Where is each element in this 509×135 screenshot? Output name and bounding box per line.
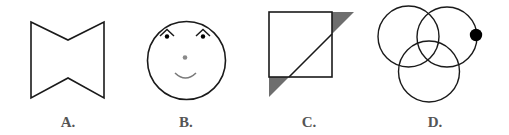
label-c: C. — [289, 114, 329, 130]
figure-b — [148, 22, 226, 100]
figure-c — [269, 12, 354, 97]
smile-icon — [175, 73, 196, 78]
bowtie-hexagon-shape — [31, 22, 104, 98]
figure-a — [31, 22, 104, 98]
left-eye-icon — [165, 34, 169, 38]
black-dot-icon — [470, 29, 482, 41]
label-a: A. — [48, 114, 88, 130]
circle-bottom — [399, 41, 460, 102]
figure-d — [378, 6, 482, 102]
circle-right — [417, 7, 477, 67]
shaded-triangle-top — [332, 12, 354, 34]
label-d: D. — [415, 114, 455, 130]
nose-icon — [183, 55, 188, 60]
right-eye-icon — [201, 34, 205, 38]
diagonal-line — [289, 34, 332, 77]
shaded-triangle-bottom — [269, 77, 289, 97]
circle-left — [378, 6, 439, 67]
face-circle — [148, 22, 226, 100]
label-b: B. — [166, 114, 206, 130]
